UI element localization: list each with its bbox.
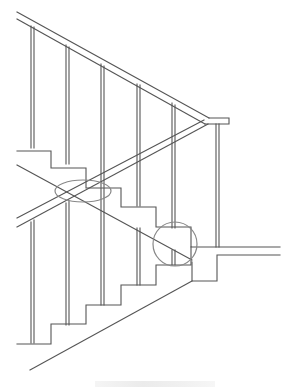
- staircase-drawing: [0, 0, 293, 388]
- landing-edge: [192, 255, 280, 281]
- upper-handrail: [17, 12, 229, 124]
- upper-balusters: [31, 26, 219, 247]
- lower-stringer: [30, 281, 192, 370]
- upper-stair-profile: [17, 151, 280, 247]
- figure-caption: [95, 381, 215, 387]
- lower-handrail: [17, 120, 208, 227]
